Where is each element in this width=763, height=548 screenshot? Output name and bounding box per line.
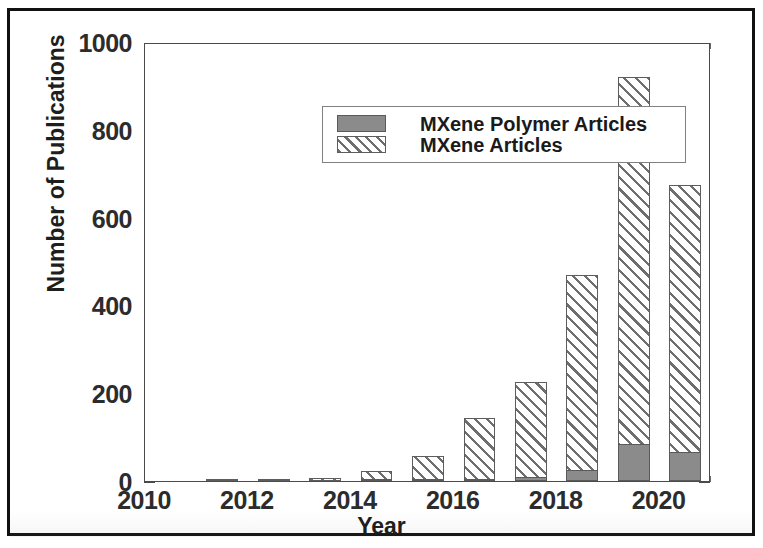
chart-legend: MXene Polymer Articles MXene Articles xyxy=(322,106,686,163)
bar-mxene-polymer-articles-2016 xyxy=(464,479,496,481)
legend-label-mxene-articles: MXene Articles xyxy=(420,135,563,155)
x-axis-title: Year xyxy=(0,513,763,540)
bar-mxene-articles-2020 xyxy=(669,185,701,481)
bar-mxene-polymer-articles-2017 xyxy=(515,477,547,481)
bar-mxene-articles-2015 xyxy=(412,456,444,481)
legend-entry-mxene-articles: MXene Articles xyxy=(337,134,685,155)
x-tick-label-2012: 2012 xyxy=(220,486,274,515)
bar-mxene-polymer-articles-2019 xyxy=(618,444,650,481)
y-axis-title: Number of Publications xyxy=(43,0,70,329)
x-minor-tick-top-2021 xyxy=(710,43,711,49)
bar-mxene-articles-2018 xyxy=(566,275,598,481)
bar-mxene-articles-2016 xyxy=(464,418,496,481)
legend-label-mxene-polymer-articles: MXene Polymer Articles xyxy=(420,114,647,134)
bar-mxene-articles-2011 xyxy=(206,479,238,481)
solid-gray-swatch-icon xyxy=(337,115,386,132)
publications-bar-chart: 02004006008001000 2010201220142016201820… xyxy=(0,0,763,548)
bar-mxene-polymer-articles-2020 xyxy=(669,452,701,481)
legend-entry-mxene-polymer-articles: MXene Polymer Articles xyxy=(337,113,685,134)
bar-mxene-articles-2012 xyxy=(258,479,290,481)
bar-mxene-polymer-articles-2018 xyxy=(566,470,598,481)
bar-mxene-polymer-articles-2014 xyxy=(361,479,393,481)
x-tick-label-2016: 2016 xyxy=(426,486,480,515)
x-tick-label-2014: 2014 xyxy=(323,486,377,515)
x-tick-label-2018: 2018 xyxy=(529,486,583,515)
diagonal-hatch-swatch-icon xyxy=(337,136,386,153)
y-tick-label-200: 200 xyxy=(40,380,132,409)
bar-mxene-articles-2017 xyxy=(515,382,547,481)
x-minor-tick-2021 xyxy=(710,476,711,482)
y-major-tick-right-0 xyxy=(699,482,710,483)
x-tick-label-2020: 2020 xyxy=(632,486,686,515)
bar-mxene-articles-2013 xyxy=(309,478,341,482)
plot-frame: MXene Polymer Articles MXene Articles xyxy=(144,43,710,482)
x-tick-label-2010: 2010 xyxy=(117,486,171,515)
y-major-tick-0 xyxy=(144,482,155,483)
bar-mxene-polymer-articles-2015 xyxy=(412,479,444,481)
